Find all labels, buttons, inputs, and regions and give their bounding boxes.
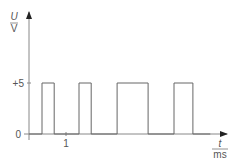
- y-label-numerator: U: [10, 11, 18, 22]
- y-tick-label-5: +5: [13, 78, 25, 89]
- x-label-denominator: ms: [213, 149, 226, 160]
- x-tick-label-1: 1: [63, 138, 69, 149]
- x-label-numerator: t: [219, 138, 223, 149]
- chart: U V t ms +5 0 1: [0, 0, 244, 160]
- y-label-denominator: V: [11, 23, 18, 34]
- y-tick-label-0: 0: [15, 129, 21, 140]
- signal-trace: [29, 83, 210, 134]
